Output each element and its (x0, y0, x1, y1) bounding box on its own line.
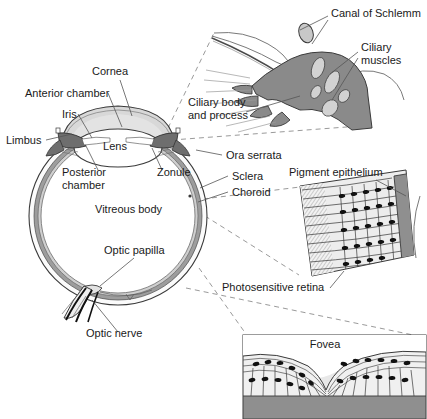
label-ciliary-muscles-line2: muscles (361, 54, 402, 66)
label-zonule: Zonule (157, 166, 191, 178)
eye-anatomy-figure: Cornea Anterior chamber Iris Limbus Lens… (0, 0, 427, 419)
fovea-pigment-epithelium (243, 396, 426, 419)
label-optic-papilla: Optic papilla (104, 244, 165, 256)
limbus-right (176, 128, 180, 133)
label-canal-of-schlemm: Canal of Schlemm (331, 7, 421, 19)
label-iris: Iris (62, 108, 77, 120)
label-optic-nerve: Optic nerve (86, 327, 142, 339)
label-anterior-chamber: Anterior chamber (25, 87, 110, 99)
label-fovea: Fovea (310, 338, 341, 350)
label-choroid: Choroid (232, 186, 271, 198)
label-ciliary-muscles-line1: Ciliary (361, 41, 392, 53)
limbus-left (56, 128, 60, 133)
label-cornea: Cornea (92, 65, 129, 77)
label-ora-serrata: Ora serrata (226, 149, 283, 161)
fovea-inset-labels: Fovea (310, 338, 341, 350)
label-pigment-epithelium: Pigment epithelium (289, 166, 383, 178)
label-sclera: Sclera (232, 170, 264, 182)
label-lens: Lens (103, 140, 127, 152)
label-vitreous-body: Vitreous body (95, 203, 163, 215)
label-photosensitive-retina: Photosensitive retina (222, 281, 325, 293)
label-limbus: Limbus (6, 134, 42, 146)
label-ciliary-body-line1: Ciliary body (188, 96, 246, 108)
label-ciliary-body-line2: and process (188, 109, 248, 121)
label-posterior-chamber-line2: chamber (62, 179, 105, 191)
ora-serrata-marker (188, 194, 191, 197)
label-posterior-chamber-line1: Posterior (62, 166, 106, 178)
